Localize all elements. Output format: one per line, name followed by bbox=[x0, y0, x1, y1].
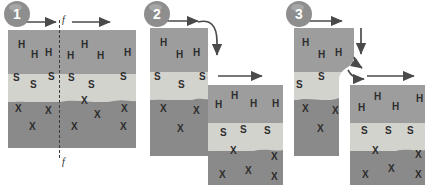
layer-letter-x: X bbox=[245, 166, 252, 176]
layer-letter-x: X bbox=[362, 170, 369, 180]
layer-letter-h: H bbox=[97, 51, 104, 61]
layer-letter-x: X bbox=[15, 104, 22, 114]
layer-letter-s: S bbox=[154, 72, 161, 82]
stage-2-panel: 2 H H H S S S X X X H H H H S S S X X X … bbox=[140, 0, 285, 185]
layer-letter-s: S bbox=[68, 73, 75, 83]
layer-letter-h: H bbox=[272, 99, 279, 109]
layer-letter-x: X bbox=[219, 170, 226, 180]
layer-letter-x: X bbox=[177, 124, 184, 134]
layer-letter-h: H bbox=[124, 48, 131, 58]
layer-letter-h: H bbox=[231, 91, 238, 101]
fault-label-top: f bbox=[62, 14, 65, 25]
layer-letter-s: S bbox=[361, 126, 368, 136]
layer-letter-s: S bbox=[240, 125, 247, 135]
layer-letter-x: X bbox=[193, 106, 200, 116]
layer-letter-x: X bbox=[302, 104, 309, 114]
stage-2-badge: 2 bbox=[144, 1, 170, 27]
layer-letter-s: S bbox=[48, 72, 55, 82]
layer-letter-h: H bbox=[302, 38, 309, 48]
layer-boundary-wave bbox=[8, 97, 136, 107]
layer-letter-s: S bbox=[296, 80, 303, 90]
layer-letter-s: S bbox=[178, 80, 185, 90]
layer-letter-s: S bbox=[13, 73, 20, 83]
layer-letter-h: H bbox=[358, 103, 365, 113]
layer-letter-s: S bbox=[199, 72, 206, 82]
layer-letter-h: H bbox=[160, 38, 167, 48]
layer-letter-x: X bbox=[230, 146, 237, 156]
stage-1-number: 1 bbox=[13, 6, 21, 22]
layer-letter-x: X bbox=[120, 122, 127, 132]
layer-letter-x: X bbox=[71, 122, 78, 132]
layer-letter-h: H bbox=[18, 40, 25, 50]
layer-letter-x: X bbox=[94, 110, 101, 120]
layer-letter-x: X bbox=[271, 172, 278, 182]
layer-letter-s: S bbox=[220, 128, 227, 138]
layer-letter-x: X bbox=[415, 170, 422, 180]
layer-letter-h: H bbox=[335, 48, 342, 58]
stage-3-panel: 3 H H H S S X X X H H H H S S S X X X X … bbox=[282, 0, 425, 185]
layer-letter-x: X bbox=[372, 146, 379, 156]
layer-letter-h: H bbox=[250, 99, 257, 109]
stage-1-badge: 1 bbox=[4, 1, 30, 27]
layer-letter-x: X bbox=[121, 104, 128, 114]
layer-letter-x: X bbox=[29, 122, 36, 132]
layer-letter-h: H bbox=[193, 48, 200, 58]
layer-letter-s: S bbox=[264, 126, 271, 136]
layer-letter-h: H bbox=[374, 92, 381, 102]
layer-letter-s: S bbox=[88, 80, 95, 90]
layer-boundary-wave bbox=[150, 95, 208, 105]
layer-letter-h: H bbox=[416, 94, 423, 104]
layer-letter-h: H bbox=[176, 50, 183, 60]
layer-letter-x: X bbox=[81, 96, 88, 106]
layer-letter-s: S bbox=[120, 72, 127, 82]
stage-1-panel: 1 H H H H H H H S S S S S S X X X X X X … bbox=[0, 0, 142, 185]
fault-label-bottom: f bbox=[62, 156, 65, 167]
layer-letter-h: H bbox=[45, 48, 52, 58]
layer-letter-h: H bbox=[318, 50, 325, 60]
layer-letter-s: S bbox=[385, 126, 392, 136]
layer-letter-h: H bbox=[81, 40, 88, 50]
arrow-curved-elbow-upper bbox=[354, 57, 362, 68]
stage-2-number: 2 bbox=[153, 6, 161, 22]
layer-letter-x: X bbox=[332, 106, 339, 116]
layer-letter-s: S bbox=[407, 126, 414, 136]
stage-3-badge: 3 bbox=[286, 1, 312, 27]
layer-letter-s: S bbox=[30, 80, 37, 90]
layer-letter-h: H bbox=[215, 100, 222, 110]
layer-letter-x: X bbox=[160, 104, 167, 114]
stage-3-number: 3 bbox=[295, 6, 303, 22]
layer-letter-h: H bbox=[31, 50, 38, 60]
layer-letter-x: X bbox=[45, 106, 52, 116]
layer-letter-x: X bbox=[388, 164, 395, 174]
layer-boundary-wave bbox=[350, 146, 425, 156]
layer-letter-x: X bbox=[415, 150, 422, 160]
layer-letter-h: H bbox=[392, 102, 399, 112]
layer-letter-h: H bbox=[67, 51, 74, 61]
layer-letter-x: X bbox=[271, 152, 278, 162]
arrow-curved-elbow-lower bbox=[348, 70, 364, 79]
fault-line-dashed bbox=[59, 20, 60, 158]
layer-letter-x: X bbox=[317, 124, 324, 134]
layer-letter-s: S bbox=[318, 72, 325, 82]
layer-s bbox=[294, 72, 356, 100]
